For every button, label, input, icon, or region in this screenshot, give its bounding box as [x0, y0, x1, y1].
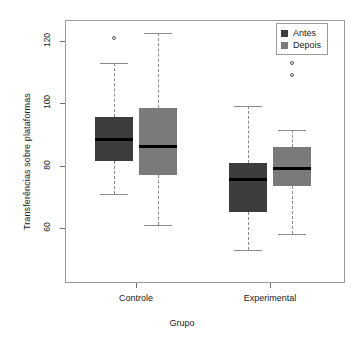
legend-item: Antes [281, 27, 321, 39]
legend-label: Depois [293, 39, 321, 51]
box-antes-experimental [229, 163, 267, 213]
whisker-cap-upper [144, 33, 172, 34]
y-tick-label: 100 [42, 91, 52, 113]
outlier-point [112, 36, 116, 40]
y-axis-title: Transferências sobre plataformas [22, 93, 32, 230]
whisker-upper [158, 33, 159, 108]
y-tick-mark [60, 166, 65, 167]
whisker-upper [292, 130, 293, 147]
outlier-point [290, 61, 294, 65]
box-depois-controle [139, 108, 177, 175]
boxplot-figure: Transferências sobre plataformas Grupo 6… [0, 0, 364, 339]
x-tick-label: Controle [119, 293, 153, 303]
whisker-lower [114, 161, 115, 194]
legend-swatch-icon [281, 30, 288, 37]
y-tick-label: 80 [42, 154, 52, 176]
whisker-upper [248, 106, 249, 162]
whisker-cap-lower [100, 194, 128, 195]
whisker-cap-lower [278, 234, 306, 235]
x-tick-label: Experimental [244, 293, 297, 303]
legend-swatch-icon [281, 42, 288, 49]
legend: AntesDepois [276, 23, 328, 55]
y-tick-mark [60, 228, 65, 229]
whisker-lower [248, 212, 249, 249]
whisker-cap-upper [100, 63, 128, 64]
median-line [139, 145, 177, 148]
median-line [95, 138, 133, 141]
y-tick-label: 60 [42, 216, 52, 238]
whisker-lower [158, 175, 159, 225]
whisker-cap-upper [234, 106, 262, 107]
legend-item: Depois [281, 39, 321, 51]
x-axis-title: Grupo [0, 318, 364, 328]
legend-label: Antes [293, 27, 316, 39]
median-line [273, 167, 311, 170]
whisker-cap-lower [144, 225, 172, 226]
x-tick-mark [270, 283, 271, 288]
y-tick-mark [60, 41, 65, 42]
whisker-lower [292, 186, 293, 234]
x-tick-mark [136, 283, 137, 288]
median-line [229, 178, 267, 181]
whisker-cap-upper [278, 130, 306, 131]
whisker-cap-lower [234, 250, 262, 251]
whisker-upper [114, 63, 115, 118]
y-tick-label: 120 [42, 29, 52, 51]
y-tick-mark [60, 103, 65, 104]
